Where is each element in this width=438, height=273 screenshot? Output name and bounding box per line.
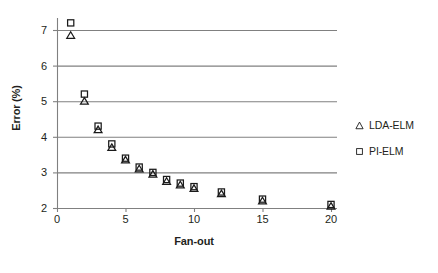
axis-tick-marks [53,31,332,213]
data-point-lda-elm [81,98,89,105]
axis-lines [57,18,337,209]
data-point-lda-elm [67,32,75,39]
legend-item-lda-elm: LDA-ELM [355,112,438,138]
legend-item-pi-elm: PI-ELM [355,138,438,164]
triangle-icon [355,121,364,130]
data-point-pi-elm [68,20,74,26]
legend: LDA-ELM PI-ELM [355,112,438,164]
gridlines [57,31,337,173]
chart-figure: Error (%) 7 6 5 4 3 2 0 5 10 15 20 Fan-o… [0,0,438,273]
data-point-pi-elm [81,91,87,97]
square-icon [355,147,364,156]
legend-label-pi-elm: PI-ELM [369,146,403,157]
data-points [67,20,335,209]
legend-label-lda-elm: LDA-ELM [369,120,414,131]
